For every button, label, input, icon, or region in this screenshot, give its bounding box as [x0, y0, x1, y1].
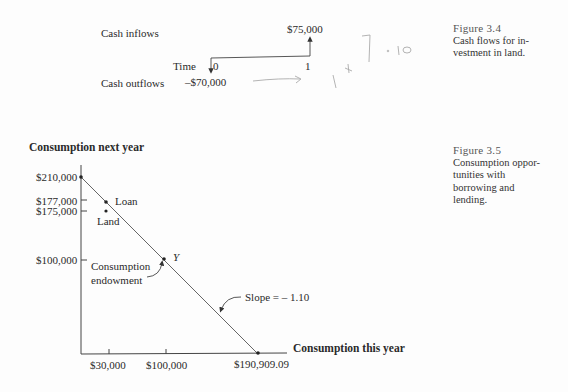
handwritten-note [253, 35, 411, 88]
budget-line [81, 177, 258, 354]
endowment-callout [147, 263, 162, 277]
figure-line-art [0, 0, 568, 392]
timeline [211, 39, 310, 71]
axes [81, 165, 287, 354]
slope-callout [221, 297, 241, 310]
